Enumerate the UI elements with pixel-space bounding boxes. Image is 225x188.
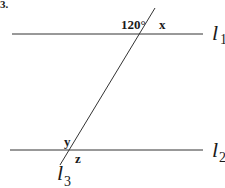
label-l3: l 3 xyxy=(57,160,71,188)
svg-text:l: l xyxy=(57,160,63,185)
svg-text:l: l xyxy=(212,20,218,45)
svg-text:3: 3 xyxy=(64,174,71,188)
svg-text:1: 1 xyxy=(220,32,225,47)
label-l2: l 2 xyxy=(212,137,225,165)
svg-text:l: l xyxy=(212,137,218,162)
parallel-lines-diagram: 3. 120° x y z l 1 l 2 l 3 xyxy=(0,0,225,188)
angle-120-label: 120° xyxy=(121,17,146,32)
angle-x-label: x xyxy=(159,17,166,32)
angle-y-label: y xyxy=(64,134,71,149)
problem-number: 3. xyxy=(0,0,9,10)
label-l1: l 1 xyxy=(212,20,225,47)
svg-text:2: 2 xyxy=(219,150,225,165)
angle-z-label: z xyxy=(75,151,81,166)
